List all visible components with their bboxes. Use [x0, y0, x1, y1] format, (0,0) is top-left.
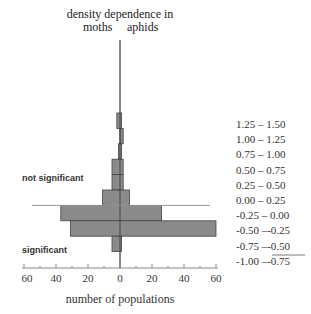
bin-label: -1.00 –-0.75: [236, 255, 290, 267]
bin-label: -0.50 –-0.25: [236, 224, 290, 236]
x-axis-label: number of populations: [60, 292, 180, 307]
x-tick-label: 20: [78, 272, 98, 284]
not-significant-label: not significant: [22, 173, 84, 183]
bin-label: 0.00 – 0.25: [236, 194, 286, 206]
x-tick-label: 0: [110, 272, 130, 284]
histogram-bar: [70, 221, 216, 236]
histogram-bar: [61, 205, 162, 220]
bin-label: 1.25 – 1.50: [236, 118, 286, 130]
bin-label: 0.50 – 0.75: [236, 164, 286, 176]
bin-label: 1.00 – 1.25: [236, 133, 286, 145]
histogram-bar: [112, 159, 123, 174]
x-tick-label: 20: [142, 272, 162, 284]
significant-label: significant: [22, 245, 67, 255]
bin-label: -0.75 –-0.50: [236, 240, 290, 252]
histogram-bar: [117, 113, 122, 128]
bin-label: 0.75 – 1.00: [236, 148, 286, 160]
x-tick-label: 40: [46, 272, 66, 284]
bin-label: 0.25 – 0.50: [236, 179, 286, 191]
bin-label: -0.25 – 0.00: [236, 209, 289, 221]
x-tick-label: 40: [174, 272, 194, 284]
x-tick-label: 60: [206, 272, 226, 284]
histogram-bar: [112, 175, 123, 190]
histogram-bar: [102, 190, 129, 205]
x-tick-label: 60: [17, 272, 37, 284]
histogram-bar: [120, 128, 123, 143]
